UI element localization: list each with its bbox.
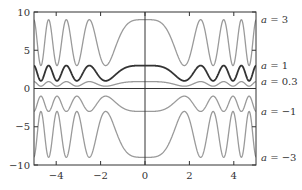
x-tick-label: −2	[93, 170, 108, 181]
x-tick-label: −4	[49, 170, 64, 181]
series-label: a = 1	[261, 60, 288, 71]
x-tick-label: 4	[231, 170, 237, 181]
series-label: a = 0.3	[261, 76, 298, 87]
series-label: a = 3	[261, 14, 288, 25]
series-labels: a = 3a = 1a = 0.3a = −1a = −3	[261, 14, 298, 163]
x-tick-label: 2	[186, 170, 192, 181]
x-tick-label: 0	[142, 170, 148, 181]
y-tick-label: 5	[24, 45, 30, 56]
series-label: a = −3	[261, 152, 296, 163]
y-tick-label: −5	[15, 121, 30, 132]
y-tick-label: −10	[9, 160, 30, 171]
y-tick-label: 10	[17, 7, 30, 18]
line-chart: −4−2024−10−50510 a = 3a = 1a = 0.3a = −1…	[0, 0, 302, 190]
y-tick-label: 0	[24, 83, 30, 94]
series-label: a = −1	[261, 106, 296, 117]
